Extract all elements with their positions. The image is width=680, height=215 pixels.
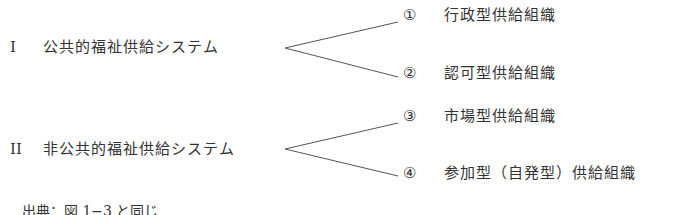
category-2-numeral: II bbox=[10, 140, 22, 158]
item-1-label: 行政型供給組織 bbox=[444, 6, 556, 24]
item-3-label: 市場型供給組織 bbox=[444, 107, 556, 125]
branch-line-1 bbox=[285, 22, 398, 48]
branch-lines bbox=[0, 0, 680, 215]
branch-line-2 bbox=[285, 48, 398, 77]
source-caption: 出典：図 1−3 と同じ bbox=[22, 202, 158, 215]
category-1-numeral: I bbox=[10, 38, 16, 56]
category-1-label: 公共的福祉供給システム bbox=[43, 38, 219, 56]
item-4-marker: ④ bbox=[403, 164, 416, 182]
item-1-marker: ① bbox=[403, 6, 416, 24]
branch-line-4 bbox=[285, 149, 398, 176]
category-2-label: 非公共的福祉供給システム bbox=[43, 140, 235, 158]
item-2-marker: ② bbox=[403, 64, 416, 82]
item-3-marker: ③ bbox=[403, 107, 416, 125]
item-4-label: 参加型（自発型）供給組織 bbox=[444, 164, 636, 182]
branch-line-3 bbox=[285, 123, 398, 149]
item-2-label: 認可型供給組織 bbox=[444, 64, 556, 82]
